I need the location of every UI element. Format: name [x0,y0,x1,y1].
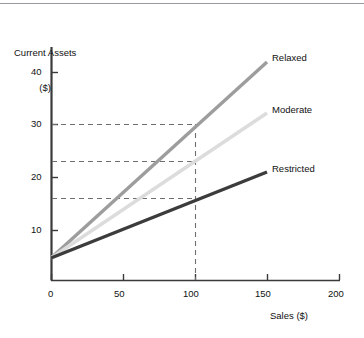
chart-figure: Current Assets ($) Sales ($) 10 20 30 40… [0,0,364,338]
x-tick-label-50: 50 [114,288,125,300]
series-line-relaxed [51,62,267,258]
series-label-restricted: Restricted [272,163,315,175]
series-label-moderate: Moderate [272,104,312,116]
x-tick-label-150: 150 [255,288,271,300]
y-axis-title-line2: ($) [14,82,76,94]
y-tick-label-10: 10 [31,224,42,236]
y-axis-title: Current Assets ($) [14,24,76,116]
x-tick-label-100: 100 [183,288,199,300]
series-lines [51,62,267,258]
y-tick-label-40: 40 [31,66,42,78]
series-label-relaxed: Relaxed [272,52,307,64]
x-tick-label-0: 0 [48,288,53,300]
x-axis-title: Sales ($) [270,310,308,322]
y-tick-label-20: 20 [31,171,42,183]
y-axis-title-line1: Current Assets [14,47,76,59]
y-tick-label-30: 30 [31,118,42,130]
x-tick-label-200: 200 [328,288,344,300]
